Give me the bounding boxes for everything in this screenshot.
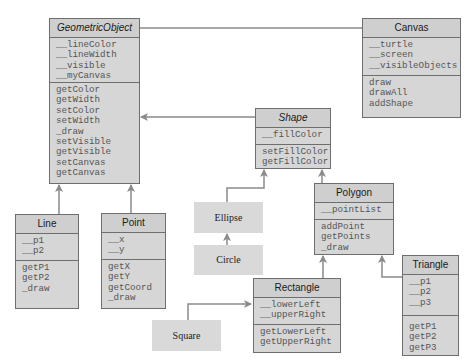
class-name: Point bbox=[102, 214, 165, 233]
class-shape: Shape __fillColor setFillColorgetFillCol… bbox=[255, 108, 331, 169]
class-attributes: __p1__p2__p3 bbox=[403, 275, 458, 316]
class-rectangle: Rectangle __lowerLeft__upperRight getLow… bbox=[253, 278, 341, 353]
class-methods: getColorgetWidthsetColorsetWidth_drawset… bbox=[50, 83, 139, 181]
class-attributes: __pointList bbox=[315, 203, 393, 220]
class-attributes: __p1__p2 bbox=[16, 234, 78, 261]
class-member: getFillColor bbox=[262, 157, 325, 167]
class-attributes: __fillColor bbox=[256, 128, 330, 145]
inherit-ellipse-shape bbox=[227, 170, 264, 202]
class-methods: getP1getP2_draw bbox=[16, 261, 78, 296]
class-member: __upperRight bbox=[260, 310, 335, 320]
class-member: getUpperRight bbox=[260, 337, 335, 347]
inherit-triangle-polygon bbox=[382, 256, 402, 277]
class-geometricobject: GeometricObject __lineColor__lineWidth__… bbox=[49, 18, 140, 184]
class-member: __p2 bbox=[22, 246, 73, 256]
class-ellipse: Ellipse bbox=[194, 202, 263, 233]
class-methods: getP1getP2getP3 bbox=[403, 316, 458, 355]
class-name: Rectangle bbox=[254, 279, 340, 298]
class-name: Triangle bbox=[403, 256, 458, 275]
class-methods: getXgetYgetCoord_draw bbox=[102, 260, 165, 306]
class-member: addShape bbox=[369, 99, 455, 109]
class-member: __pointList bbox=[321, 205, 388, 215]
class-member: __visibleObjects bbox=[369, 61, 455, 71]
class-polygon: Polygon __pointList addPointgetPoints_dr… bbox=[314, 183, 394, 255]
class-triangle: Triangle __p1__p2__p3 getP1getP2getP3 bbox=[402, 255, 459, 356]
inherit-square-rectangle bbox=[188, 304, 251, 320]
class-member: getP3 bbox=[409, 343, 453, 353]
class-methods: setFillColorgetFillColor bbox=[256, 145, 330, 170]
class-canvas: Canvas __turtle__screen__visibleObjects … bbox=[362, 18, 461, 118]
class-line: Line __p1__p2 getP1getP2_draw bbox=[15, 214, 79, 309]
class-name: Canvas bbox=[363, 19, 460, 38]
class-methods: addPointgetPoints_draw bbox=[315, 220, 393, 255]
class-attributes: __lineColor__lineWidth__visible__myCanva… bbox=[50, 38, 139, 83]
class-attributes: __lowerLeft__upperRight bbox=[254, 298, 340, 325]
class-square: Square bbox=[152, 320, 221, 351]
class-point: Point __x__y getXgetYgetCoord_draw bbox=[101, 213, 166, 309]
class-member: _draw bbox=[321, 243, 388, 253]
class-methods: getLowerLeftgetUpperRight bbox=[254, 325, 340, 350]
class-name: Polygon bbox=[315, 184, 393, 203]
class-member: __fillColor bbox=[262, 130, 325, 140]
class-member: __p3 bbox=[409, 298, 453, 308]
class-member: _draw bbox=[108, 293, 160, 303]
class-name: GeometricObject bbox=[50, 19, 139, 38]
class-member: _draw bbox=[22, 284, 73, 294]
class-name: Shape bbox=[256, 109, 330, 128]
class-member: __myCanvas bbox=[56, 71, 134, 81]
class-circle: Circle bbox=[194, 245, 263, 275]
class-member: getCanvas bbox=[56, 168, 134, 178]
class-attributes: __turtle__screen__visibleObjects bbox=[363, 38, 460, 76]
class-methods: drawdrawAlladdShape bbox=[363, 76, 460, 111]
class-attributes: __x__y bbox=[102, 233, 165, 260]
class-member: __y bbox=[108, 245, 160, 255]
class-name: Line bbox=[16, 215, 78, 234]
